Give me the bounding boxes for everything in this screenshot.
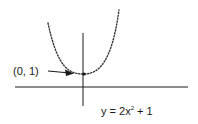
equation-suffix: + 1	[134, 105, 153, 117]
parabola-diagram	[0, 0, 198, 124]
equation-prefix: y = 2x	[101, 105, 131, 117]
vertex-point	[82, 72, 85, 75]
vertex-label: (0, 1)	[13, 66, 39, 77]
equation-label: y = 2x2 + 1	[101, 105, 153, 117]
